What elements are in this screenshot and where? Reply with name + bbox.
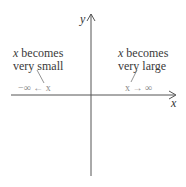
right-annotation-text: x becomes very large — [118, 47, 168, 73]
right-annotation-line2: very large — [118, 60, 168, 73]
left-notation: −∞ ← x — [18, 82, 51, 93]
left-annotation-line2: very small — [13, 60, 63, 73]
right-annotation-line1: becomes — [123, 46, 168, 60]
right-notation: x → ∞ — [125, 82, 152, 93]
x-axis-label: x — [171, 96, 176, 111]
left-annotation-line1: becomes — [18, 46, 63, 60]
coordinate-axes — [0, 0, 186, 187]
left-annotation-text: x becomes very small — [13, 47, 63, 73]
y-axis-label: y — [80, 12, 85, 27]
